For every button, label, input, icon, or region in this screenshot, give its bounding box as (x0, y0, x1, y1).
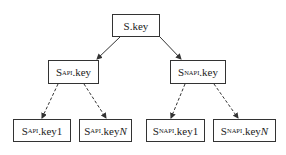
node-label-italic: N (119, 125, 126, 137)
edge-root-api (97, 37, 120, 59)
edge-api-apiN (84, 84, 106, 118)
edge-napi-napi1 (171, 84, 185, 118)
node-label-sub: NAPI (184, 69, 199, 76)
node-label-sub: NAPI (227, 127, 242, 134)
node-napi: SNAPI.key (170, 60, 226, 84)
node-label-suffix: .key (72, 66, 91, 78)
node-label-sub: NAPI (159, 127, 174, 134)
node-label-suffix: .key1 (38, 125, 62, 137)
node-label-sub: API (90, 127, 100, 134)
node-root: S.key (112, 14, 160, 37)
node-label-suffix: .key (101, 125, 120, 137)
node-label-suffix: .key (130, 20, 149, 32)
node-label-suffix: .key1 (174, 125, 198, 137)
edge-napi-napiN (214, 84, 238, 118)
node-label-suffix: .key (199, 66, 218, 78)
node-label-suffix: .key (242, 125, 261, 137)
node-label-sub: API (62, 69, 72, 76)
node-label-italic: N (261, 125, 268, 137)
node-napi-key1: SNAPI.key1 (146, 119, 205, 142)
node-napi-keyN: SNAPI.keyN (213, 119, 276, 142)
edge-api-api1 (42, 84, 58, 118)
node-label-sub: API (28, 127, 38, 134)
edge-root-napi (160, 37, 181, 59)
node-api: SAPI.key (48, 60, 99, 84)
node-api-keyN: SAPI.keyN (79, 119, 132, 142)
node-api-key1: SAPI.key1 (13, 119, 71, 142)
